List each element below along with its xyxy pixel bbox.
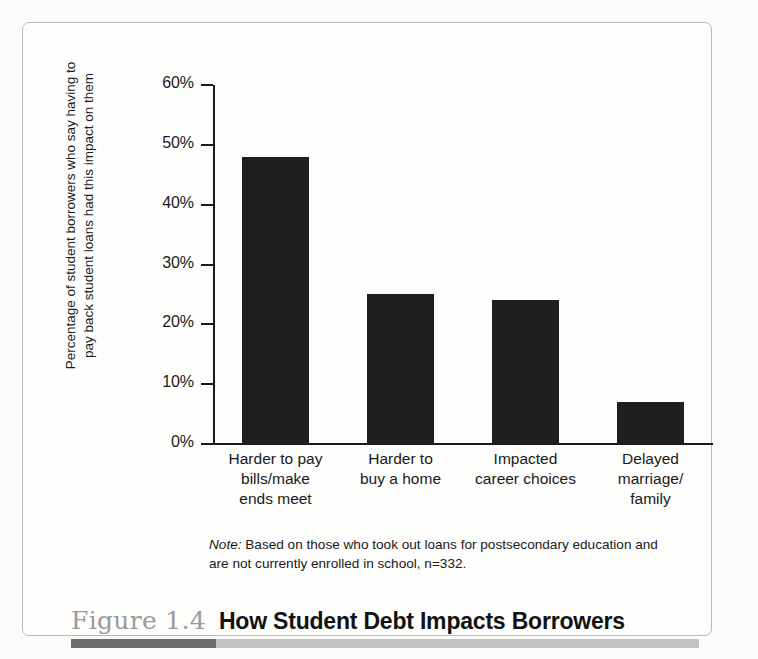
category-label-line: career choices	[463, 469, 588, 489]
page-background: Percentage of student borrowers who say …	[0, 0, 758, 659]
figure-title: How Student Debt Impacts Borrowers	[219, 608, 625, 635]
x-axis-category-labels: Harder to paybills/makeends meetHarder t…	[213, 449, 713, 525]
y-axis-tick-label: 50%	[162, 134, 194, 152]
y-axis-tick: 30%	[201, 264, 213, 266]
y-axis-tick-label: 30%	[162, 254, 194, 272]
category-label-line: bills/make	[213, 469, 338, 489]
note-text: Based on those who took out loans for po…	[209, 537, 658, 571]
y-axis-tick: 50%	[201, 144, 213, 146]
y-axis-tick-label: 60%	[162, 74, 194, 92]
chart-note: Note: Based on those who took out loans …	[209, 535, 679, 573]
figure-frame: Percentage of student borrowers who say …	[22, 22, 712, 636]
y-axis-tick-label: 40%	[162, 194, 194, 212]
category-label-line: marriage/	[588, 469, 713, 489]
bar	[367, 294, 434, 444]
x-axis-category-label: Harder tobuy a home	[338, 449, 463, 489]
category-label-line: Delayed	[588, 449, 713, 469]
x-axis-category-label: Impactedcareer choices	[463, 449, 588, 489]
y-axis-tick: 10%	[201, 383, 213, 385]
category-label-line: Harder to pay	[213, 449, 338, 469]
y-axis-title: Percentage of student borrowers who say …	[62, 51, 97, 381]
bar	[492, 300, 559, 444]
y-axis-tick: 60%	[201, 84, 213, 86]
bar	[617, 402, 684, 444]
accent-rule-light-segment	[216, 639, 699, 648]
y-axis-tick-label: 0%	[171, 433, 194, 451]
y-axis-tick: 40%	[201, 204, 213, 206]
category-label-line: Harder to	[338, 449, 463, 469]
figure-number: Figure 1.4	[71, 606, 206, 635]
x-axis-category-label: Harder to paybills/makeends meet	[213, 449, 338, 509]
y-axis-tick: 0%	[201, 443, 213, 445]
x-axis-category-label: Delayedmarriage/family	[588, 449, 713, 509]
y-axis-tick-label: 10%	[162, 373, 194, 391]
category-label-line: family	[588, 489, 713, 509]
caption-accent-rule	[71, 639, 699, 648]
category-label-line: ends meet	[213, 489, 338, 509]
figure-caption: Figure 1.4 How Student Debt Impacts Borr…	[71, 606, 701, 636]
bars-layer	[213, 85, 713, 444]
category-label-line: buy a home	[338, 469, 463, 489]
note-label: Note:	[209, 537, 242, 552]
bar	[242, 157, 309, 444]
category-label-line: Impacted	[463, 449, 588, 469]
accent-rule-dark-segment	[71, 639, 216, 648]
y-axis-tick: 20%	[201, 323, 213, 325]
y-axis-tick-label: 20%	[162, 313, 194, 331]
